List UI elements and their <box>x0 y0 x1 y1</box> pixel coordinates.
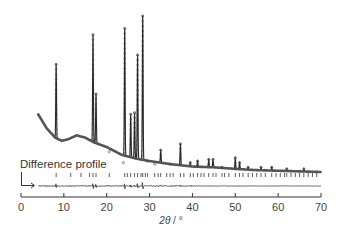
difference-profile-curve <box>38 183 321 189</box>
x-axis: 010203040506070 <box>18 193 327 213</box>
difference-profile-label: Difference profile <box>20 158 107 170</box>
x-tick-label: 20 <box>101 201 113 213</box>
x-tick-label: 60 <box>272 201 284 213</box>
bragg-reflection-ticks <box>56 173 317 177</box>
annotation-arrow-icon <box>22 172 35 188</box>
x-tick-label: 70 <box>315 201 327 213</box>
x-tick-label: 50 <box>229 201 241 213</box>
xrd-chart: Difference profile 010203040506070 2θ / … <box>0 0 342 237</box>
observed-pattern <box>38 15 321 172</box>
x-axis-label: 2θ / ° <box>158 215 182 226</box>
x-tick-label: 10 <box>58 201 70 213</box>
x-tick-label: 0 <box>18 201 24 213</box>
x-tick-label: 30 <box>143 201 155 213</box>
x-tick-label: 40 <box>186 201 198 213</box>
